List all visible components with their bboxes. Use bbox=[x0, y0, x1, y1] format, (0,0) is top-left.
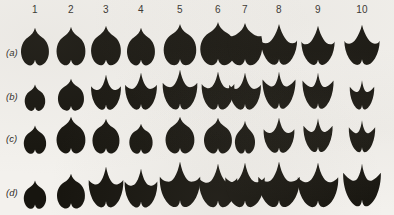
leaf-c-5 bbox=[165, 116, 196, 155]
column-number-10: 10 bbox=[356, 4, 368, 15]
leaf-a-10 bbox=[344, 24, 380, 67]
column-number-5: 5 bbox=[177, 4, 183, 15]
row-label-d: (d) bbox=[6, 187, 18, 198]
leaf-b-7 bbox=[229, 72, 262, 112]
leaf-d-8 bbox=[258, 161, 301, 210]
leaf-c-3 bbox=[92, 118, 121, 155]
leaf-a-5 bbox=[163, 23, 198, 67]
leaf-b-1 bbox=[24, 84, 46, 112]
column-number-6: 6 bbox=[215, 4, 221, 15]
leaf-c-6 bbox=[203, 117, 233, 155]
leaf-a-9 bbox=[301, 25, 335, 67]
leaf-c-7 bbox=[232, 120, 258, 155]
leaf-c-9 bbox=[303, 118, 334, 155]
column-number-3: 3 bbox=[103, 4, 109, 15]
leaf-b-10 bbox=[349, 80, 375, 112]
leaf-d-10 bbox=[342, 163, 382, 210]
leaf-c-2 bbox=[56, 116, 87, 155]
leaf-b-5 bbox=[162, 69, 198, 112]
leaf-d-2 bbox=[56, 173, 86, 210]
leaf-b-3 bbox=[91, 74, 122, 112]
leaf-d-4 bbox=[124, 168, 158, 210]
leaf-a-3 bbox=[90, 25, 122, 67]
leaf-c-4 bbox=[129, 123, 154, 155]
leaf-a-7 bbox=[226, 22, 264, 67]
leaf-a-2 bbox=[56, 26, 87, 67]
column-number-9: 9 bbox=[315, 4, 321, 15]
leaf-b-2 bbox=[57, 78, 85, 112]
row-label-c: (c) bbox=[6, 133, 17, 144]
leaf-b-4 bbox=[125, 72, 158, 112]
row-label-b: (b) bbox=[6, 91, 18, 102]
leaf-morphology-figure: 12345678910 (a)(b)(c)(d) bbox=[0, 0, 394, 215]
leaf-d-3 bbox=[88, 166, 124, 210]
leaf-c-10 bbox=[348, 120, 376, 155]
column-number-2: 2 bbox=[68, 4, 74, 15]
column-number-4: 4 bbox=[138, 4, 144, 15]
leaf-b-8 bbox=[262, 71, 297, 112]
leaf-c-1 bbox=[23, 125, 47, 155]
leaf-c-8 bbox=[263, 117, 295, 155]
column-header-row: 12345678910 bbox=[0, 0, 394, 20]
leaf-a-4 bbox=[126, 27, 156, 67]
column-number-7: 7 bbox=[242, 4, 248, 15]
leaf-b-9 bbox=[302, 72, 335, 112]
leaf-d-5 bbox=[159, 161, 201, 210]
leaf-d-1 bbox=[23, 180, 47, 210]
column-number-1: 1 bbox=[32, 4, 38, 15]
leaf-a-1 bbox=[20, 27, 50, 67]
leaf-a-8 bbox=[261, 23, 298, 67]
column-number-8: 8 bbox=[276, 4, 282, 15]
row-label-a: (a) bbox=[6, 47, 18, 58]
leaf-d-9 bbox=[297, 162, 339, 210]
